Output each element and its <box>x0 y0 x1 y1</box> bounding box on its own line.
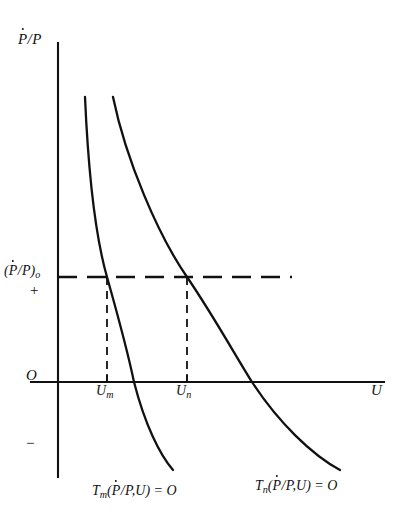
y-axis-label: P/P <box>18 32 41 47</box>
negative-sign-label: − <box>26 436 34 451</box>
curve-label-tm: Tm(P/P,U) = O <box>92 484 177 500</box>
curve-label-tn: Tn(P/P,U) = O <box>255 479 337 495</box>
reference-level-label: (P/P)o <box>4 264 40 280</box>
tick-label-un: Un <box>176 384 191 400</box>
plot-canvas <box>0 0 403 528</box>
positive-sign-label: + <box>30 283 38 298</box>
tick-label-um: Um <box>96 384 113 400</box>
x-axis-label: U <box>371 383 382 398</box>
curve-tn <box>113 97 340 470</box>
origin-label: O <box>26 368 37 383</box>
inflation-unemployment-figure: P/P (P/P)o + − O U Um Un Tm(P/P,U) = O T… <box>0 0 403 528</box>
